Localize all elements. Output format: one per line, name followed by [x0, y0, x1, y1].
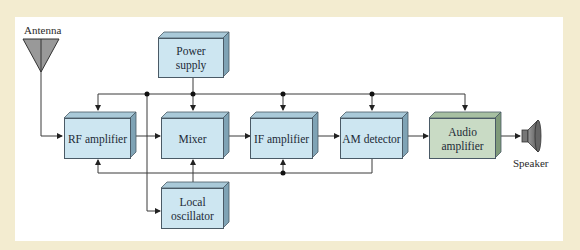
block-if-amplifier: IF amplifier [250, 118, 313, 159]
speaker-label: Speaker [513, 157, 548, 169]
block-rf-amplifier: RF amplifier [64, 118, 131, 159]
speaker-icon [522, 120, 541, 152]
local-oscillator-label: Local oscillator [168, 195, 218, 223]
block-local-oscillator: Local oscillator [161, 188, 224, 229]
rf-amplifier-label: RF amplifier [68, 132, 127, 146]
audio-amplifier-label: Audio amplifier [438, 125, 488, 153]
block-audio-amplifier: Audio amplifier [429, 118, 496, 159]
antenna-icon [23, 39, 59, 72]
block-mixer: Mixer [161, 118, 224, 159]
power-supply-label: Power supply [169, 44, 213, 72]
mixer-label: Mixer [178, 132, 206, 146]
block-power-supply: Power supply [158, 38, 224, 78]
if-amplifier-label: IF amplifier [254, 132, 309, 146]
am-detector-label: AM detector [342, 132, 400, 146]
antenna-label: Antenna [24, 24, 61, 36]
block-am-detector: AM detector [340, 118, 403, 159]
